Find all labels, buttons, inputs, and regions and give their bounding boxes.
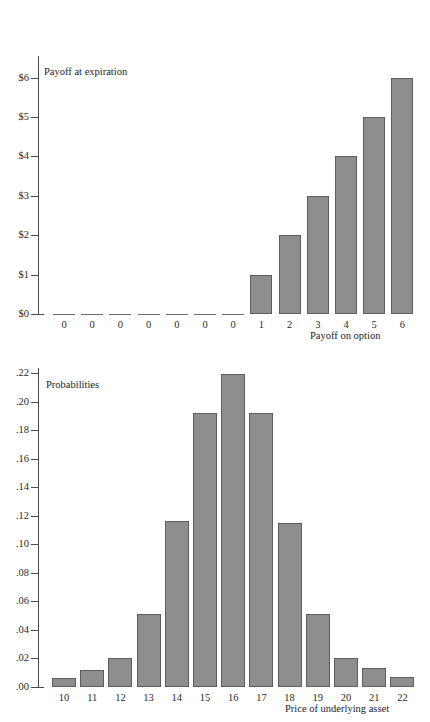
bar-zero: [138, 314, 160, 315]
bar-zero: [222, 314, 244, 315]
payoff-y-tick-label: $6: [0, 73, 29, 84]
bar-zero: [81, 314, 103, 315]
bar: [391, 78, 413, 314]
payoff-x-axis-title: Payoff on option: [310, 330, 380, 341]
payoff-y-tick: [31, 117, 38, 118]
prob-y-tick-label: .02: [0, 653, 29, 664]
payoff-y-tick: [31, 275, 38, 276]
bar: [307, 196, 329, 314]
prob-y-tick: [31, 630, 38, 631]
bar: [165, 521, 189, 687]
prob-x-axis-line: [38, 687, 44, 688]
payoff-y-tick: [31, 196, 38, 197]
bar: [52, 678, 76, 687]
prob-y-tick: [31, 402, 38, 403]
payoff-y-tick: [31, 314, 38, 315]
prob-y-tick: [31, 601, 38, 602]
prob-y-tick-label: .10: [0, 539, 29, 550]
prob-y-tick: [31, 658, 38, 659]
payoff-y-tick-label: $3: [0, 191, 29, 202]
payoff-x-tick-label: 6: [382, 320, 422, 331]
payoff-x-axis-line: [38, 314, 44, 315]
payoff-y-tick-label: $1: [0, 270, 29, 281]
bar-zero: [194, 314, 216, 315]
prob-y-tick-label: .18: [0, 425, 29, 436]
prob-y-tick: [31, 544, 38, 545]
prob-y-tick-label: .04: [0, 625, 29, 636]
payoff-y-tick: [31, 235, 38, 236]
payoff-plot-area: Payoff at expiration Payoff on option $0…: [0, 0, 430, 355]
probabilities-x-axis-title: Price of underlying asset: [285, 703, 389, 714]
prob-y-tick: [31, 516, 38, 517]
bar: [137, 614, 161, 687]
payoff-y-tick-label: $4: [0, 151, 29, 162]
payoff-y-tick-label: $0: [0, 309, 29, 320]
prob-y-tick: [31, 573, 38, 574]
prob-y-tick-label: .16: [0, 454, 29, 465]
bar: [334, 658, 358, 687]
payoff-y-tick: [31, 156, 38, 157]
bar: [335, 156, 357, 314]
prob-y-tick: [31, 487, 38, 488]
prob-y-tick-label: .08: [0, 568, 29, 579]
prob-y-tick-label: .00: [0, 682, 29, 693]
probabilities-series-label: Probabilities: [46, 379, 99, 390]
prob-y-tick: [31, 430, 38, 431]
bar: [363, 117, 385, 314]
bar: [362, 668, 386, 687]
prob-y-tick: [31, 459, 38, 460]
prob-y-tick: [31, 687, 38, 688]
payoff-y-tick-label: $2: [0, 230, 29, 241]
bar: [306, 614, 330, 687]
prob-y-tick-label: .14: [0, 482, 29, 493]
probabilities-plot-area: Probabilities Price of underlying asset …: [0, 355, 430, 722]
prob-y-axis-line: [38, 368, 39, 688]
prob-y-tick-label: .12: [0, 511, 29, 522]
payoff-y-tick: [31, 78, 38, 79]
prob-y-tick-label: .22: [0, 368, 29, 379]
payoff-y-tick-label: $5: [0, 112, 29, 123]
prob-y-tick-label: .06: [0, 596, 29, 607]
bar-zero: [166, 314, 188, 315]
bar: [108, 658, 132, 687]
probabilities-chart: Probabilities Price of underlying asset …: [0, 355, 430, 722]
bar: [250, 275, 272, 314]
bar: [193, 413, 217, 687]
bar: [279, 235, 301, 314]
bar: [249, 413, 273, 687]
payoff-series-label: Payoff at expiration: [44, 66, 127, 77]
payoff-y-axis-line: [38, 56, 39, 315]
bar-zero: [109, 314, 131, 315]
bar-zero: [53, 314, 75, 315]
prob-x-tick-label: 22: [382, 693, 422, 704]
prob-y-tick: [31, 373, 38, 374]
bar: [278, 523, 302, 687]
bar: [221, 374, 245, 687]
bar: [80, 670, 104, 687]
payoff-chart: Payoff at expiration Payoff on option $0…: [0, 0, 430, 355]
bar: [390, 677, 414, 687]
prob-y-tick-label: .20: [0, 397, 29, 408]
